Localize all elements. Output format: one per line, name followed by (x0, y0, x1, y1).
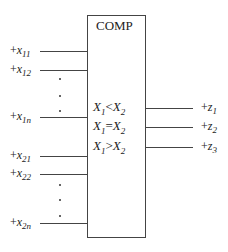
input-line-x22 (40, 174, 87, 175)
block-title: COMP (96, 18, 133, 34)
input-label-x1n: +x1n (10, 109, 31, 125)
ellipsis-dot (59, 78, 61, 80)
condition-greater: X1>X2 (93, 138, 125, 156)
ellipsis-dot (59, 215, 61, 217)
output-label-z2: +z2 (201, 119, 217, 135)
condition-less: X1<X2 (93, 99, 125, 117)
input-line-x21 (40, 156, 87, 157)
input-line-x11 (40, 51, 87, 52)
input-line-x12 (40, 70, 87, 71)
input-label-x21: +x21 (10, 148, 31, 164)
ellipsis-dot (59, 95, 61, 97)
output-label-z3: +z3 (201, 139, 217, 155)
ellipsis-dot (59, 184, 61, 186)
input-label-x22: +x22 (10, 166, 31, 182)
ellipsis-dot (59, 199, 61, 201)
output-line-z2 (146, 127, 193, 128)
input-line-x2n (40, 223, 87, 224)
ellipsis-dot (59, 110, 61, 112)
input-label-x12: +x12 (10, 62, 31, 78)
condition-equal: X1=X2 (93, 118, 125, 136)
input-label-x11: +x11 (10, 43, 30, 59)
input-line-x1n (40, 117, 87, 118)
output-line-z3 (146, 147, 193, 148)
output-line-z1 (146, 108, 193, 109)
output-label-z1: +z1 (201, 100, 217, 116)
input-label-x2n: +x2n (10, 215, 31, 231)
